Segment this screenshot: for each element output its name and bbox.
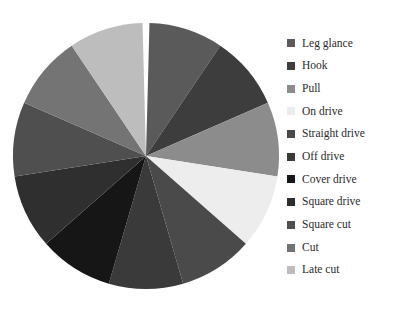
legend-swatch-icon bbox=[287, 39, 295, 47]
legend-item-label: Straight drive bbox=[302, 128, 365, 140]
legend-item[interactable]: Late cut bbox=[286, 259, 393, 282]
legend-item-label: Square drive bbox=[302, 196, 360, 208]
pie-chart-page: Leg glanceHookPullOn driveStraight drive… bbox=[0, 0, 393, 310]
legend-swatch-icon bbox=[287, 62, 295, 70]
legend-item[interactable]: Cover drive bbox=[286, 168, 393, 191]
pie-chart-svg bbox=[0, 0, 285, 310]
chart-legend: Leg glanceHookPullOn driveStraight drive… bbox=[286, 32, 393, 282]
legend-swatch-icon bbox=[287, 130, 295, 138]
legend-swatch-icon bbox=[287, 107, 295, 115]
legend-swatch-icon bbox=[287, 175, 295, 183]
legend-item-label: On drive bbox=[302, 106, 343, 118]
legend-swatch-icon bbox=[287, 198, 295, 206]
legend-item-label: Cut bbox=[302, 242, 319, 254]
legend-item[interactable]: Hook bbox=[286, 55, 393, 78]
legend-item[interactable]: Pull bbox=[286, 77, 393, 100]
legend-item[interactable]: Cut bbox=[286, 236, 393, 259]
legend-item[interactable]: Square drive bbox=[286, 191, 393, 214]
legend-item-label: Leg glance bbox=[302, 38, 353, 50]
legend-swatch-icon bbox=[287, 244, 295, 252]
legend-item[interactable]: Off drive bbox=[286, 145, 393, 168]
legend-swatch-icon bbox=[287, 85, 295, 93]
pie-chart-area bbox=[0, 0, 285, 310]
legend-swatch-icon bbox=[287, 266, 295, 274]
legend-item[interactable]: Square cut bbox=[286, 214, 393, 237]
legend-item[interactable]: On drive bbox=[286, 100, 393, 123]
legend-item-label: Off drive bbox=[302, 151, 344, 163]
legend-item-label: Cover drive bbox=[302, 174, 357, 186]
legend-item-label: Pull bbox=[302, 83, 321, 95]
legend-item-label: Square cut bbox=[302, 219, 351, 231]
legend-item-label: Late cut bbox=[302, 264, 339, 276]
legend-item-label: Hook bbox=[302, 60, 328, 72]
legend-item[interactable]: Leg glance bbox=[286, 32, 393, 55]
legend-swatch-icon bbox=[287, 153, 295, 161]
legend-swatch-icon bbox=[287, 221, 295, 229]
legend-item[interactable]: Straight drive bbox=[286, 123, 393, 146]
